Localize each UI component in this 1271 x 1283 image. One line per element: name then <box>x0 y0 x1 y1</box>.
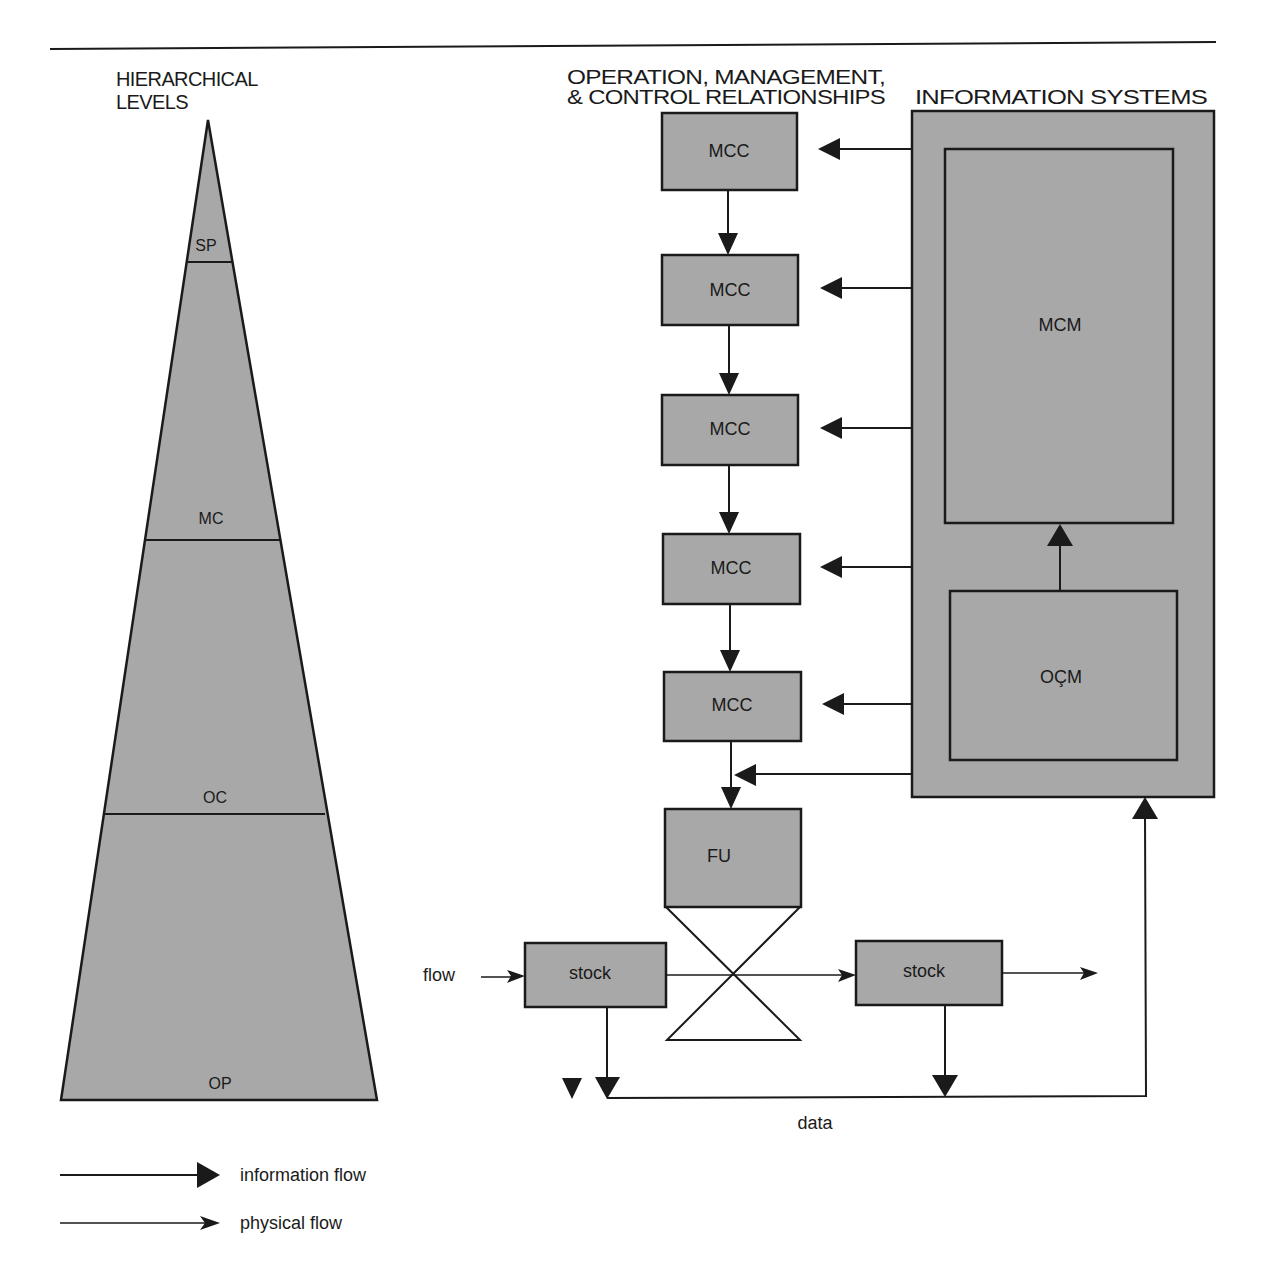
mcc-2-to-3-arrowhead <box>719 373 739 395</box>
is-to-mcc-2-arrowhead <box>820 277 842 299</box>
stock-in-label: stock <box>569 963 612 983</box>
fu-box <box>665 809 801 907</box>
hierarchy-pyramid: SP MC OC OP <box>61 120 377 1100</box>
top-rule <box>50 42 1216 49</box>
legend-info-arrowhead <box>197 1162 220 1188</box>
level-label-op: OP <box>208 1075 231 1092</box>
information-systems-block: MCM OÇM <box>912 111 1214 797</box>
is-to-mcc-1-arrowhead <box>818 138 840 160</box>
fu-label: FU <box>707 846 731 866</box>
stock-in-data-arrowhead <box>595 1077 620 1099</box>
omc-title-line2: & CONTROL RELATIONSHIPS <box>567 86 885 108</box>
legend-physical-label: physical flow <box>240 1213 343 1233</box>
physical-flow: FU flow stock stock <box>423 809 1098 1040</box>
mcc-1-to-2-arrowhead <box>718 233 738 255</box>
level-label-oc: OC <box>203 789 227 806</box>
stock-out-label: stock <box>903 961 946 981</box>
legend-info-label: information flow <box>240 1165 367 1185</box>
omc-title-line1: OPERATION, MANAGEMENT, <box>567 66 885 88</box>
hierarchy-title-line2: LEVELS <box>116 91 188 113</box>
data-small-arrowhead <box>562 1078 582 1099</box>
is-to-mcc-3-arrowhead <box>820 417 842 439</box>
mcc-chain: MCC MCC MCC MCC MCC <box>662 113 912 809</box>
mcm-label: MCM <box>1039 315 1082 335</box>
data-to-is-arrowhead <box>1132 797 1158 819</box>
is-to-mcc-4-arrowhead <box>820 556 842 578</box>
stock-out-data-arrowhead <box>932 1075 958 1097</box>
level-label-sp: SP <box>195 237 216 254</box>
mcc-label-2: MCC <box>710 280 751 300</box>
level-label-mc: MC <box>199 510 224 527</box>
flow-label: flow <box>423 965 456 985</box>
mcc-4-to-5-arrowhead <box>720 650 740 672</box>
mcc-label-3: MCC <box>710 419 751 439</box>
mcc-5-to-fu-arrowhead <box>721 787 741 809</box>
mcc-label-1: MCC <box>709 141 750 161</box>
is-to-fu-arrowhead <box>734 764 756 786</box>
ocm-label: OÇM <box>1040 667 1082 687</box>
data-label: data <box>797 1113 833 1133</box>
fu-bowtie <box>666 907 800 1040</box>
is-to-mcc-5-arrowhead <box>822 693 844 715</box>
mcc-3-to-4-arrowhead <box>719 512 739 534</box>
hierarchy-title-line1: HIERARCHICAL <box>116 68 258 90</box>
info-systems-title: INFORMATION SYSTEMS <box>915 86 1207 108</box>
pyramid-shape <box>61 120 377 1100</box>
legend: information flow physical flow <box>60 1162 367 1233</box>
mcm-module <box>945 149 1173 523</box>
mcc-label-4: MCC <box>711 558 752 578</box>
diagram-canvas: HIERARCHICAL LEVELS SP MC OC OP OPERATIO… <box>0 0 1271 1283</box>
mcc-label-5: MCC <box>712 695 753 715</box>
